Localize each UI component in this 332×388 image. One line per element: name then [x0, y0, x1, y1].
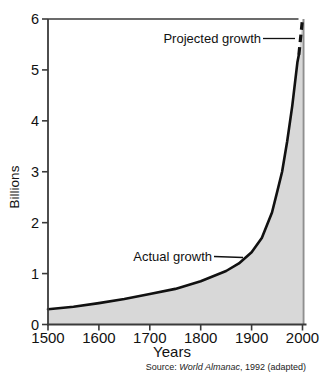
x-axis-title: Years — [153, 343, 191, 360]
population-growth-figure: 0123456150016001700180019002000 Billions… — [0, 0, 332, 388]
x-tick-label: 1500 — [31, 329, 64, 346]
source-prefix: Source: — [146, 362, 180, 372]
x-tick-label: 1900 — [235, 329, 268, 346]
y-tick-label: 6 — [31, 11, 39, 27]
y-tick-label: 4 — [31, 113, 39, 129]
source-work-title: World Almanac — [179, 362, 240, 372]
actual-leader-line — [214, 257, 243, 258]
area-fill — [48, 19, 303, 325]
y-tick-label: 1 — [31, 266, 39, 282]
y-tick-label: 5 — [31, 62, 39, 78]
x-tick-label: 1600 — [82, 329, 115, 346]
x-tick-label: 2000 — [286, 329, 319, 346]
source-citation: Source: World Almanac, 1992 (adapted) — [146, 362, 306, 372]
y-tick-label: 2 — [31, 215, 39, 231]
actual-growth-label: Actual growth — [133, 249, 212, 264]
projected-growth-label: Projected growth — [163, 31, 261, 46]
y-axis-title: Billions — [7, 166, 22, 209]
population-growth-chart: 0123456150016001700180019002000 — [0, 0, 332, 388]
source-suffix: , 1992 (adapted) — [240, 362, 306, 372]
y-tick-label: 3 — [31, 164, 39, 180]
